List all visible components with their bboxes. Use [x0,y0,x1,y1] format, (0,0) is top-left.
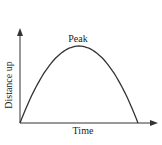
distance-time-diagram: Peak Time Distance up [0,0,162,145]
x-axis-label: Time [73,125,94,136]
distance-curve [20,46,138,123]
y-axis-label: Distance up [3,61,14,109]
peak-label: Peak [68,33,87,44]
